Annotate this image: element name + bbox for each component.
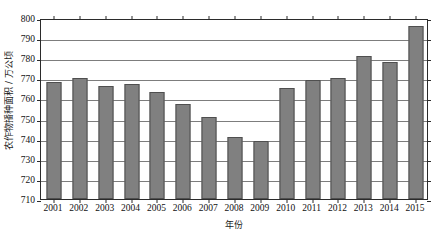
x-axis-tick-mark	[364, 16, 365, 20]
x-axis-tick-label: 2014	[380, 203, 399, 213]
y-axis-tick-label: 740	[21, 135, 35, 145]
x-axis-tick-label: 2015	[406, 203, 425, 213]
x-axis-tick-mark	[53, 16, 54, 20]
bar	[331, 78, 346, 199]
x-axis-tick-label: 2002	[69, 203, 88, 213]
y-axis-tick-label: 800	[21, 14, 35, 24]
bar	[124, 84, 139, 199]
x-axis-tick-label: 2003	[95, 203, 114, 213]
x-axis-tick-mark	[416, 16, 417, 20]
bar	[279, 88, 294, 199]
bar	[202, 117, 217, 199]
x-axis-tick-label: 2009	[250, 203, 269, 213]
y-axis-tick-label: 750	[21, 115, 35, 125]
x-axis-tick-mark	[390, 16, 391, 20]
x-axis-tick-mark	[235, 16, 236, 20]
bar	[72, 78, 87, 199]
x-axis-tick-mark	[105, 16, 106, 20]
bar-chart-figure: 农作物播种面积 / 万公顷 71072073074075076077078079…	[0, 0, 436, 251]
x-axis-tick-label: 2001	[43, 203, 62, 213]
x-axis-tick-label: 2010	[276, 203, 295, 213]
y-axis-tick-label: 730	[21, 155, 35, 165]
x-axis-tick-mark	[157, 16, 158, 20]
plot-area	[40, 19, 428, 200]
bar-slot	[41, 20, 67, 199]
bar-slot	[326, 20, 352, 199]
x-axis-tick-label: 2013	[354, 203, 373, 213]
y-axis-tick-label: 720	[21, 175, 35, 185]
x-axis-tick-mark	[79, 16, 80, 20]
bar	[305, 80, 320, 199]
x-axis-tick-mark	[209, 16, 210, 20]
y-axis-tick-label: 780	[21, 54, 35, 64]
x-axis-tick-mark	[338, 16, 339, 20]
x-axis-tick-mark	[183, 16, 184, 20]
y-axis-tick-label: 760	[21, 94, 35, 104]
y-axis-tick-mark	[37, 201, 41, 202]
x-axis-tick-mark	[286, 16, 287, 20]
bar-series	[41, 20, 427, 199]
bar-slot	[222, 20, 248, 199]
x-axis-tick-label: 2008	[225, 203, 244, 213]
bar	[46, 82, 61, 199]
y-axis-title-text: 农作物播种面积 / 万公顷	[2, 51, 15, 150]
x-axis-tick-mark	[131, 16, 132, 20]
x-axis-title: 年份	[40, 218, 428, 231]
y-axis-tick-label: 710	[21, 195, 35, 205]
bar	[357, 56, 372, 199]
bar	[253, 141, 268, 199]
bar-slot	[403, 20, 429, 199]
bar	[176, 104, 191, 199]
bar-slot	[119, 20, 145, 199]
x-axis-tick-label: 2012	[328, 203, 347, 213]
bar-slot	[144, 20, 170, 199]
bar	[409, 26, 424, 199]
y-axis-tick-mark	[427, 201, 431, 202]
bar-slot	[300, 20, 326, 199]
x-axis-tick-label: 2006	[173, 203, 192, 213]
x-axis-tick-mark	[260, 16, 261, 20]
x-axis-tick-labels: 2001200220032004200520062007200820092010…	[40, 203, 428, 217]
y-axis-tick-labels: 710720730740750760770780790800	[14, 19, 38, 200]
bar	[150, 92, 165, 199]
bar-slot	[248, 20, 274, 199]
y-axis-tick-label: 770	[21, 74, 35, 84]
bar-slot	[377, 20, 403, 199]
x-axis-tick-label: 2005	[147, 203, 166, 213]
x-axis-tick-mark	[312, 16, 313, 20]
bar	[98, 86, 113, 199]
bar-slot	[196, 20, 222, 199]
bar-slot	[67, 20, 93, 199]
x-axis-tick-label: 2004	[121, 203, 140, 213]
bar	[227, 137, 242, 199]
x-axis-tick-label: 2007	[199, 203, 218, 213]
bar-slot	[93, 20, 119, 199]
y-axis-tick-label: 790	[21, 34, 35, 44]
bar-slot	[170, 20, 196, 199]
x-axis-tick-label: 2011	[302, 203, 321, 213]
bar-slot	[274, 20, 300, 199]
bar	[383, 62, 398, 199]
bar-slot	[351, 20, 377, 199]
